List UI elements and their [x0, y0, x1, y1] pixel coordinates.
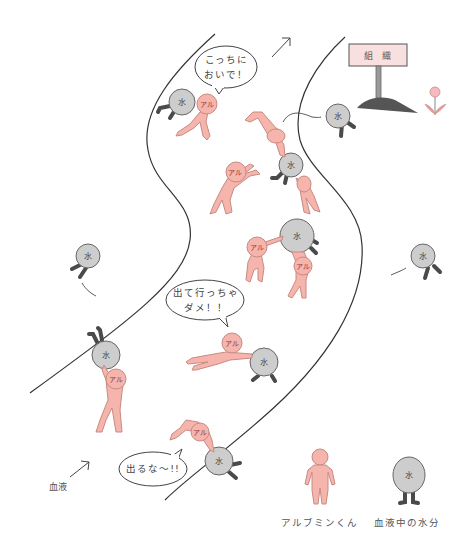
svg-text:アル: アル — [225, 340, 239, 348]
svg-text:水: 水 — [293, 231, 301, 241]
svg-text:水: 水 — [334, 111, 342, 121]
svg-text:水: 水 — [419, 251, 427, 261]
svg-text:水: 水 — [287, 160, 295, 170]
tissue-sign-label: 組 織 — [364, 49, 394, 62]
albumin-figure — [296, 176, 320, 214]
bubble-line: こっちに — [200, 52, 252, 67]
water-droplet — [411, 244, 440, 278]
bubble-line: ダメ！！ — [168, 300, 244, 315]
water-droplet — [89, 328, 120, 369]
svg-text:水: 水 — [178, 97, 186, 107]
water-droplet — [158, 89, 195, 118]
albumin-figure: アル — [96, 365, 126, 432]
bubble-come-here-text: こっちに おいで！ — [200, 52, 252, 82]
legend-albumin-figure — [305, 449, 335, 504]
bubble-dont-leave-text: 出て行っちゃ ダメ！！ — [168, 285, 244, 315]
svg-text:水: 水 — [215, 456, 223, 466]
albumin-figure: アル — [186, 333, 252, 370]
svg-text:アル: アル — [228, 169, 242, 177]
blood-label: 血液 — [49, 480, 67, 493]
albumin-figure: アル — [246, 236, 283, 282]
flow-arrow-top — [272, 38, 290, 57]
legend-water-label: 血液中の水分 — [374, 515, 440, 529]
svg-text:水: 水 — [102, 350, 110, 360]
svg-text:アル: アル — [109, 376, 123, 384]
albumin-water-illustration: アル アル アル アル アル アル — [0, 0, 470, 559]
albumin-figure — [245, 112, 285, 157]
bubble-line: 出て行っちゃ — [168, 285, 244, 300]
svg-text:アル: アル — [193, 429, 207, 437]
albumin-figure: アル — [210, 162, 260, 214]
albumin-figure: アル — [170, 420, 214, 452]
svg-text:水: 水 — [260, 357, 268, 367]
albumin-figure: アル — [288, 252, 312, 298]
svg-text:アル: アル — [250, 244, 264, 252]
svg-text:水: 水 — [84, 251, 92, 261]
svg-text:アル: アル — [200, 101, 214, 109]
flower-icon — [425, 87, 446, 115]
bubble-line: おいで！ — [200, 67, 252, 82]
svg-text:水: 水 — [405, 470, 413, 480]
bubble-dont-go-out-text: 出るな～!! — [122, 461, 184, 476]
svg-text:アル: アル — [296, 263, 310, 271]
legend-water-droplet: 水 — [393, 457, 425, 503]
vessel-wall-left — [30, 34, 215, 393]
flow-arrow-bottom — [70, 461, 89, 477]
bubble-line: 出るな～!! — [122, 461, 184, 476]
legend-albumin-label: アルブミンくん — [281, 515, 358, 529]
